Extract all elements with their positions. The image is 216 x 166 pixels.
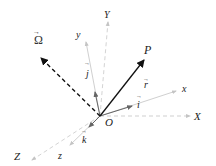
label-r: r [144, 79, 148, 90]
unit-vector-j [95, 92, 100, 116]
fixed-axes [32, 22, 190, 160]
label-X: X [193, 110, 202, 122]
label-z: z [57, 150, 62, 161]
label-i: i [137, 99, 140, 110]
fixed-axis-Z [32, 116, 100, 160]
label-Y: Y [104, 9, 111, 20]
unit-vector-i [100, 106, 132, 116]
label-P: P [143, 43, 152, 57]
label-k: k [82, 134, 87, 145]
fixed-axis-Y [100, 22, 108, 116]
label-Z: Z [14, 150, 21, 162]
omega-label: Ω [34, 33, 43, 47]
label-y: y [75, 29, 81, 40]
label-j: j [84, 68, 89, 79]
labels: → Ω P → r Y y → j x → i X O → k z Z [14, 9, 202, 162]
j-arrow-accent: → [84, 60, 90, 66]
rotating-frame-diagram: → Ω P → r Y y → j x → i X O → k z Z [0, 0, 216, 166]
label-O: O [105, 116, 113, 128]
label-x: x [181, 83, 187, 94]
